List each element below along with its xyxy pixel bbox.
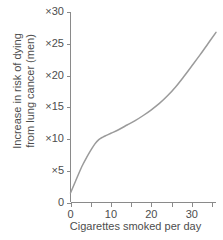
y-tick-label: 0 [18, 196, 64, 208]
y-axis-title-line-2: from lung cancer (men) [24, 1, 37, 181]
y-axis-title-line-1: Increase in risk of dying [11, 1, 24, 181]
chart-container: 0×5×10×15×20×25×30 0102030 Cigarettes sm… [0, 0, 223, 240]
x-tick-label: 0 [56, 208, 86, 220]
x-axis-title: Cigarettes smoked per day [48, 220, 223, 232]
x-tick-label: 20 [136, 208, 166, 220]
axes-group [71, 12, 217, 203]
x-ticks [72, 203, 213, 207]
x-tick-label: 10 [96, 208, 126, 220]
y-axis-title: Increase in risk of dying from lung canc… [11, 1, 37, 181]
data-series-lung-cancer-risk [71, 32, 217, 193]
y-ticks [67, 13, 71, 204]
x-tick-label: 30 [177, 208, 207, 220]
